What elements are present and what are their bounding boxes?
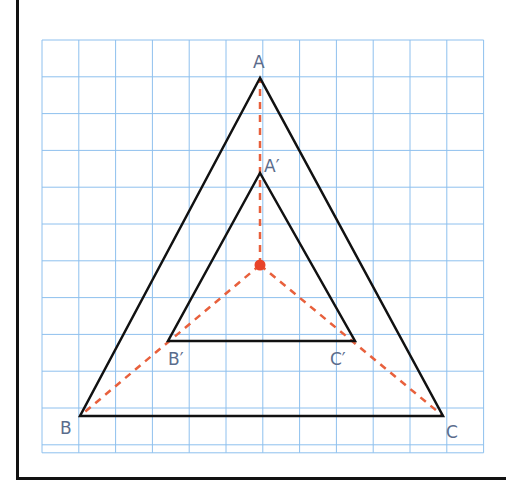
center-of-dilation-point	[255, 260, 266, 271]
label-C-prime: C′	[330, 349, 346, 369]
label-A-prime: A′	[264, 156, 280, 176]
label-A: A	[253, 52, 265, 72]
label-B-prime: B′	[168, 349, 184, 369]
dilation-rays	[80, 78, 443, 416]
triangle-ABC	[80, 78, 443, 416]
label-B: B	[60, 418, 72, 438]
label-C: C	[446, 422, 458, 442]
